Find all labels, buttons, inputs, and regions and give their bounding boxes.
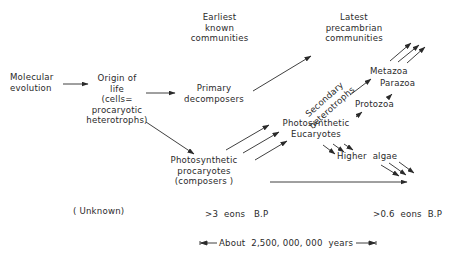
node-metazoa: Metazoa — [370, 66, 408, 77]
node-molecular-evolution: Molecular evolution — [10, 72, 54, 93]
arrow-to-parazoa — [388, 94, 392, 98]
arrow-primary-to-latest — [253, 56, 311, 91]
node-origin-of-life: Origin of life (cells= procaryotic heter… — [82, 73, 152, 126]
timeline-unknown: ( Unknown) — [73, 206, 124, 217]
timeline-early: >3 eons B.P — [205, 209, 268, 220]
node-photosynthetic-eucaryotes: Photosynthetic Eucaryotes — [272, 118, 360, 139]
arrow-metazoa-up-2 — [398, 45, 419, 62]
arrow-origin-to-procaryotes — [146, 122, 194, 154]
arrow-algae-down-1 — [381, 165, 399, 176]
arrow-metazoa-up-1 — [390, 43, 411, 61]
node-primary-decomposers: Primary decomposers — [176, 83, 252, 104]
node-earliest-communities: Earliest known communities — [182, 12, 257, 44]
node-photosynthetic-procaryotes: Photosynthetic procaryotes (composers ) — [160, 155, 248, 187]
arrow-procaryotes-to-eucaryotes-3 — [255, 141, 287, 160]
arrow-procaryotes-to-eucaryotes-1 — [226, 125, 269, 150]
node-higher-algae: Higher algae — [337, 151, 397, 162]
arrow-eucaryotes-to-protozoa — [356, 112, 362, 117]
arrow-eucaryotes-to-algae-3 — [344, 144, 353, 150]
timeline-late: >0.6 eons B.P — [373, 209, 442, 220]
timeline-span: About 2,500, 000, 000 years — [219, 238, 353, 249]
arrow-metazoa-up-3 — [407, 47, 425, 63]
node-protozoa: Protozoa — [355, 99, 394, 110]
node-parazoa: Parazoa — [380, 78, 415, 89]
arrow-eucaryotes-to-algae-1 — [323, 145, 335, 154]
node-latest-precambrian: Latest precambrian communities — [314, 12, 394, 44]
